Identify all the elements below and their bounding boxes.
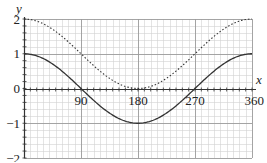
- tick-labels: −2−101290180270360: [6, 12, 264, 163]
- y-tick-label: 1: [14, 46, 21, 61]
- y-axis-title: y: [14, 1, 22, 16]
- dotted-shifted-cosine-curve: [24, 19, 252, 89]
- y-tick-label: 0: [14, 81, 21, 96]
- x-axis-title: x: [255, 72, 262, 87]
- y-tick-label: −2: [6, 151, 20, 163]
- axes: [23, 17, 257, 158]
- x-tick-label: 180: [128, 93, 148, 108]
- x-tick-label: 360: [245, 93, 265, 108]
- y-tick-label: −1: [6, 116, 20, 131]
- curves: [24, 19, 252, 123]
- x-tick-label: 270: [185, 93, 205, 108]
- x-tick-label: 90: [75, 93, 88, 108]
- cosine-chart: −2−101290180270360 x y: [0, 0, 267, 162]
